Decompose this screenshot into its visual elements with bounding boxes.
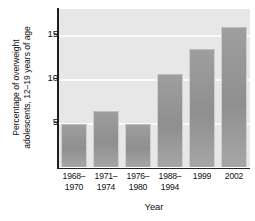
x-tick-label-0: 1968– 1970 bbox=[58, 171, 90, 199]
bar-2002 bbox=[221, 27, 247, 167]
bar-1988-1994 bbox=[157, 74, 183, 167]
x-tick-label-1-line2: 1974 bbox=[90, 182, 122, 193]
y-axis-ticks: 15 10 5 bbox=[34, 0, 58, 175]
bar-chart: Percentage of overweight adolescents, 12… bbox=[0, 0, 255, 221]
plot-area bbox=[58, 9, 250, 167]
x-tick-label-2-line2: 1980 bbox=[122, 182, 154, 193]
x-axis-tick-labels: 1968– 1970 1971– 1974 1976– 1980 1988– 1… bbox=[58, 171, 250, 199]
x-tick-label-1-line1: 1971– bbox=[90, 171, 122, 182]
x-axis-title: Year bbox=[58, 201, 250, 212]
x-tick-label-5-line1: 2002 bbox=[218, 171, 250, 182]
x-tick-label-0-line1: 1968– bbox=[58, 171, 90, 182]
x-tick-label-0-line2: 1970 bbox=[58, 182, 90, 193]
y-axis-title-line-2: adolescents, 12–19 years of age bbox=[21, 26, 32, 149]
x-tick-label-1: 1971– 1974 bbox=[90, 171, 122, 199]
y-axis-line bbox=[57, 8, 59, 169]
x-tick-label-4-line1: 1999 bbox=[186, 171, 218, 182]
bar-1971-1974 bbox=[93, 111, 119, 167]
bar-1999 bbox=[189, 49, 215, 167]
bar-1968-1970 bbox=[61, 124, 87, 167]
x-tick-label-3-line1: 1988– bbox=[154, 171, 186, 182]
x-axis-line bbox=[57, 168, 250, 170]
y-axis-title-line-1: Percentage of overweight bbox=[11, 39, 21, 135]
x-tick-label-3: 1988– 1994 bbox=[154, 171, 186, 199]
x-tick-label-4: 1999 bbox=[186, 171, 218, 199]
x-tick-label-5: 2002 bbox=[218, 171, 250, 199]
bars-layer bbox=[58, 9, 250, 167]
x-tick-label-2: 1976– 1980 bbox=[122, 171, 154, 199]
x-tick-label-3-line2: 1994 bbox=[154, 182, 186, 193]
x-tick-label-2-line1: 1976– bbox=[122, 171, 154, 182]
bar-1976-1980 bbox=[125, 124, 151, 167]
